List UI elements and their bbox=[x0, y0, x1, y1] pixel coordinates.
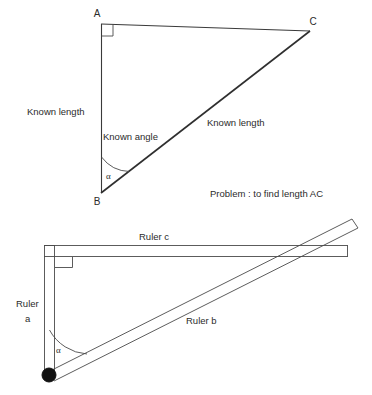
ruler-b-body bbox=[48, 219, 358, 381]
right-angle-marker-bottom bbox=[55, 257, 73, 268]
angle-alpha-label-top: α bbox=[106, 171, 111, 181]
bottom-diagram: α Ruler c Ruler a Ruler b bbox=[16, 219, 358, 382]
triangle-side-ac bbox=[101, 24, 310, 31]
label-ruler-c: Ruler c bbox=[139, 231, 169, 242]
label-known-length-bc: Known length bbox=[207, 117, 265, 128]
label-ruler-a-line2: a bbox=[25, 313, 31, 324]
problem-statement: Problem : to find length AC bbox=[210, 188, 323, 199]
ruler-c-body bbox=[44, 246, 348, 257]
label-ruler-a-line1: Ruler bbox=[16, 298, 39, 309]
angle-alpha-label-bottom: α bbox=[56, 345, 61, 355]
figure-root: α A C B Known length Known angle Known l… bbox=[0, 0, 372, 395]
label-ruler-b: Ruler b bbox=[186, 315, 217, 326]
angle-arc-b bbox=[102, 157, 130, 172]
vertex-label-a: A bbox=[94, 8, 101, 19]
geometry-figure: α A C B Known length Known angle Known l… bbox=[0, 0, 372, 395]
triangle-side-bc bbox=[101, 31, 310, 193]
vertex-label-b: B bbox=[94, 196, 101, 207]
vertex-label-c: C bbox=[309, 16, 316, 27]
label-known-length-ab: Known length bbox=[27, 106, 85, 117]
label-known-angle: Known angle bbox=[103, 131, 158, 142]
top-diagram: α A C B Known length Known angle Known l… bbox=[27, 8, 323, 207]
pivot-joint-icon bbox=[42, 368, 56, 382]
right-angle-marker-a bbox=[102, 25, 114, 37]
ruler-a-body bbox=[45, 245, 55, 378]
